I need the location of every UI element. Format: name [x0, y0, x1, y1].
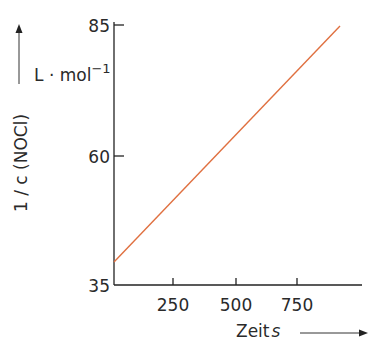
data-line	[114, 26, 340, 262]
y-tick-label-85: 85	[88, 16, 110, 36]
chart-canvas: 85 60 35 250 500 750 Zeits L · mol−1 1 /…	[0, 0, 371, 347]
y-axis-unit: L · mol−1	[34, 61, 111, 85]
y-arrow-head-icon	[16, 24, 23, 33]
x-tick-label-500: 500	[220, 295, 252, 315]
x-axis-title: Zeits	[236, 321, 281, 341]
x-arrow-head-icon	[359, 330, 368, 337]
x-tick-label-250: 250	[157, 295, 189, 315]
y-tick-label-35: 35	[88, 276, 110, 296]
x-tick-label-750: 750	[281, 295, 313, 315]
y-tick-label-60: 60	[88, 147, 110, 167]
y-axis-title: 1 / c (NOCl)	[11, 114, 31, 212]
